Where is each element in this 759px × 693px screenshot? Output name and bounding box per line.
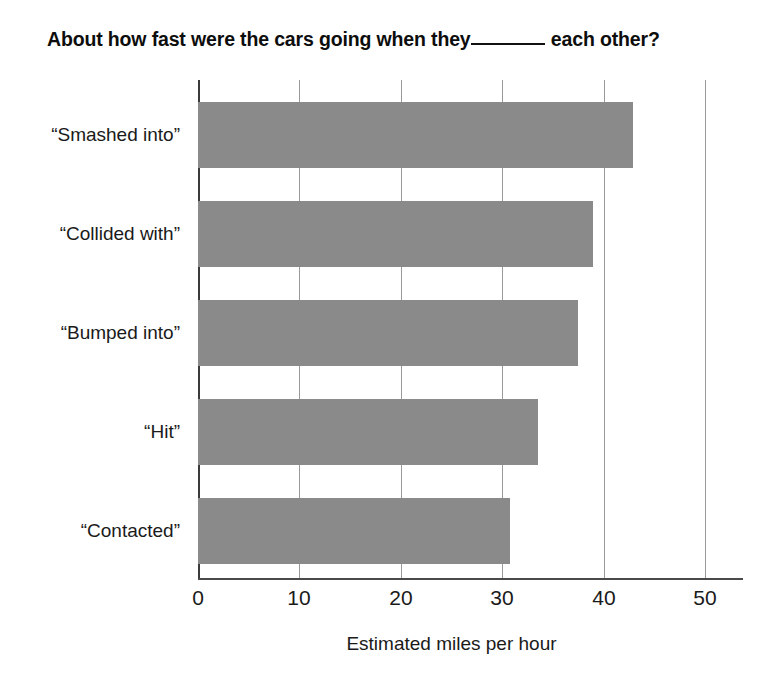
xtick-label-20: 20 bbox=[371, 586, 431, 610]
fill-in-blank-line bbox=[471, 43, 545, 45]
xtick-label-40: 40 bbox=[574, 586, 634, 610]
xtick-label-10: 10 bbox=[269, 586, 329, 610]
category-label-contacted: “Contacted” bbox=[0, 520, 180, 542]
category-label-hit: “Hit” bbox=[0, 421, 180, 443]
bar-bumped-into bbox=[198, 300, 578, 366]
category-label-collided-with: “Collided with” bbox=[0, 223, 180, 245]
chart-title-prefix: About how fast were the cars going when … bbox=[47, 28, 471, 50]
x-axis-title: Estimated miles per hour bbox=[198, 633, 705, 655]
chart-title: About how fast were the cars going when … bbox=[47, 28, 737, 51]
xtick-label-50: 50 bbox=[675, 586, 735, 610]
bar-contacted bbox=[198, 498, 510, 564]
chart-title-suffix: each other? bbox=[551, 28, 660, 50]
category-label-bumped-into: “Bumped into” bbox=[0, 322, 180, 344]
x-axis-line bbox=[198, 578, 743, 580]
xtick-label-0: 0 bbox=[168, 586, 228, 610]
gridline-50 bbox=[705, 80, 706, 578]
bar-smashed-into bbox=[198, 102, 633, 168]
bar-collided-with bbox=[198, 201, 593, 267]
category-label-smashed-into: “Smashed into” bbox=[0, 124, 180, 146]
plot-area bbox=[198, 80, 705, 578]
bar-hit bbox=[198, 399, 538, 465]
xtick-label-30: 30 bbox=[472, 586, 532, 610]
